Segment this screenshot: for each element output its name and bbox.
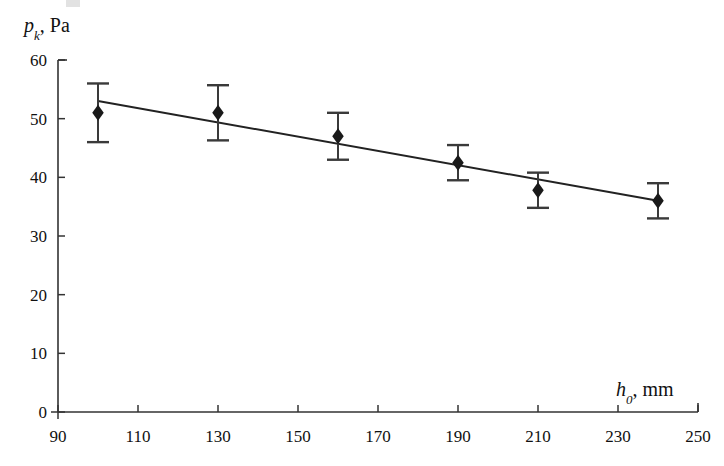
data-point-marker — [92, 105, 104, 121]
y-tick-label: 30 — [30, 227, 47, 246]
x-tick-label: 170 — [365, 427, 391, 446]
x-tick-label: 150 — [285, 427, 311, 446]
data-point-group — [92, 105, 664, 209]
x-tick-label: 210 — [525, 427, 551, 446]
plot-area: 0102030405060 90110130150170190210230250 — [0, 0, 724, 466]
y-tick-label: 0 — [39, 403, 48, 422]
data-point-marker — [212, 105, 224, 121]
x-tick-label: 110 — [126, 427, 151, 446]
x-tick-label: 190 — [445, 427, 471, 446]
y-tick-label: 10 — [30, 344, 47, 363]
data-point-marker — [532, 182, 544, 198]
data-point-marker — [332, 128, 344, 144]
y-tick-label: 60 — [30, 51, 47, 70]
axis-lines — [51, 60, 698, 419]
y-tick-label: 20 — [30, 286, 47, 305]
fit-line — [98, 101, 658, 201]
x-tick-label: 250 — [685, 427, 711, 446]
x-tick-label: 90 — [50, 427, 67, 446]
y-tick-label: 50 — [30, 110, 47, 129]
data-point-marker — [452, 155, 464, 171]
chart-container: pk, Pa h0, mm 0102030405060 901101301501… — [0, 0, 724, 466]
x-tick-label: 230 — [605, 427, 631, 446]
y-tick-label: 40 — [30, 168, 47, 187]
data-point-marker — [652, 193, 664, 209]
x-tick-label: 130 — [205, 427, 231, 446]
x-tick-label-group: 90110130150170190210230250 — [50, 427, 711, 446]
y-tick-label-group: 0102030405060 — [30, 51, 47, 422]
